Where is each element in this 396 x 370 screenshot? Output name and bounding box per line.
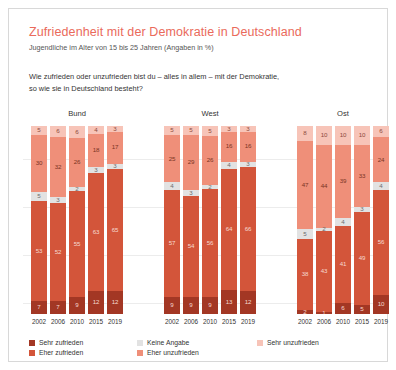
- bar-segment-value: 1: [322, 310, 325, 314]
- bar-segment-sehr-zufrieden[interactable]: 5: [354, 305, 370, 314]
- legend-item-keine-angabe[interactable]: Keine Angabe: [137, 339, 257, 346]
- bar-segment-sehr-zufrieden[interactable]: 7: [50, 301, 66, 314]
- bar-segment-eher-zufrieden[interactable]: 52: [50, 203, 66, 301]
- bar-segment-eher-unzufrieden[interactable]: 24: [373, 137, 389, 182]
- bar-segment-eher-zufrieden[interactable]: 55: [69, 191, 85, 297]
- stacked-bar[interactable]: 5254579: [164, 126, 180, 314]
- stacked-bar[interactable]: 10442431: [316, 126, 332, 314]
- bar-segment-eher-unzufrieden[interactable]: 33: [354, 145, 370, 207]
- legend-item-sehr-unzufrieden[interactable]: Sehr unzufrieden: [257, 339, 367, 346]
- bar-segment-eher-unzufrieden[interactable]: 16: [221, 132, 237, 162]
- stacked-bar[interactable]: 10333495: [354, 126, 370, 314]
- bar-segment-eher-zufrieden[interactable]: 57: [164, 190, 180, 297]
- bar-segment-value: 5: [360, 306, 363, 312]
- stacked-bar[interactable]: 31646413: [221, 126, 237, 314]
- bar-segment-sehr-zufrieden[interactable]: 12: [88, 291, 104, 314]
- bar-segment-eher-unzufrieden[interactable]: 30: [31, 135, 47, 191]
- bar-segment-sehr-unzufrieden[interactable]: 5: [31, 126, 47, 135]
- bar-segment-value: 9: [75, 302, 78, 308]
- bar-segment-sehr-unzufrieden[interactable]: 6: [373, 126, 389, 137]
- bar-segment-sehr-unzufrieden[interactable]: 10: [316, 126, 332, 145]
- stacked-bar[interactable]: 8475382: [297, 126, 313, 314]
- stacked-bar[interactable]: 31636612: [240, 126, 256, 314]
- bar-segment-eher-unzufrieden[interactable]: 16: [240, 132, 256, 162]
- legend-item-eher-zufrieden[interactable]: Eher zufrieden: [29, 349, 137, 356]
- bar-segment-sehr-zufrieden[interactable]: 2: [297, 310, 313, 314]
- bar-segment-sehr-unzufrieden[interactable]: 8: [297, 126, 313, 141]
- bar-segment-value: 9: [208, 302, 211, 308]
- bar-segment-sehr-unzufrieden[interactable]: 6: [69, 126, 85, 138]
- bar-segment-eher-zufrieden[interactable]: 56: [202, 189, 218, 296]
- bar-segment-eher-zufrieden[interactable]: 53: [31, 201, 47, 301]
- bar-segment-sehr-zufrieden[interactable]: 1: [316, 312, 332, 314]
- stacked-bar[interactable]: 31736512: [107, 126, 123, 314]
- bar-segment-sehr-zufrieden[interactable]: 13: [221, 290, 237, 314]
- stacked-bar[interactable]: 41836312: [88, 126, 104, 314]
- bar-segment-sehr-unzufrieden[interactable]: 5: [183, 126, 199, 135]
- bar-segment-sehr-zufrieden[interactable]: 9: [69, 297, 85, 314]
- bar-segment-eher-unzufrieden[interactable]: 26: [69, 138, 85, 188]
- stacked-bar[interactable]: 5293549: [183, 126, 199, 314]
- bar-segment-eher-zufrieden[interactable]: 64: [221, 169, 237, 289]
- bar-segment-eher-unzufrieden[interactable]: 18: [88, 134, 104, 168]
- bar-segment-eher-zufrieden[interactable]: 66: [240, 167, 256, 291]
- bar-segment-value: 29: [188, 159, 195, 165]
- stacked-bar[interactable]: 6262559: [69, 126, 85, 314]
- bar-segment-sehr-zufrieden[interactable]: 12: [240, 291, 256, 314]
- bar-segment-eher-unzufrieden[interactable]: 29: [183, 135, 199, 190]
- bar-group-bars: 5254579529354952625693164641331636612: [164, 126, 256, 314]
- bar-segment-eher-unzufrieden[interactable]: 26: [202, 136, 218, 186]
- legend-row: Eher zufriedenEher unzufrieden: [29, 349, 369, 356]
- bar-segment-eher-zufrieden[interactable]: 38: [297, 239, 313, 310]
- bar-segment-eher-unzufrieden[interactable]: 32: [50, 137, 66, 197]
- bar-segment-keine-angabe[interactable]: 4: [335, 218, 351, 226]
- bar-segment-eher-zufrieden[interactable]: 43: [316, 231, 332, 312]
- bar-segment-value: 39: [340, 178, 347, 184]
- bar-segment-sehr-zufrieden[interactable]: 10: [373, 295, 389, 314]
- bar-segment-sehr-zufrieden[interactable]: 9: [164, 297, 180, 314]
- stacked-bar[interactable]: 5305537: [31, 126, 47, 314]
- bar-segment-eher-zufrieden[interactable]: 49: [354, 212, 370, 304]
- bar-segment-eher-zufrieden[interactable]: 63: [88, 173, 104, 291]
- bar-segment-sehr-zufrieden[interactable]: 9: [202, 297, 218, 314]
- stacked-bar[interactable]: 5262569: [202, 126, 218, 314]
- stacked-bar[interactable]: 6323527: [50, 126, 66, 314]
- bar-segment-eher-zufrieden[interactable]: 41: [335, 226, 351, 303]
- bar-segment-value: 63: [93, 229, 100, 235]
- bar-segment-eher-unzufrieden[interactable]: 25: [164, 135, 180, 182]
- bar-segment-eher-zufrieden[interactable]: 65: [107, 169, 123, 291]
- stacked-bar[interactable]: 10394416: [335, 126, 351, 314]
- bar-segment-eher-unzufrieden[interactable]: 39: [335, 145, 351, 218]
- bar-segment-eher-unzufrieden[interactable]: 17: [107, 132, 123, 164]
- bar-segment-keine-angabe[interactable]: 4: [221, 162, 237, 170]
- bar-segment-sehr-unzufrieden[interactable]: 5: [164, 126, 180, 135]
- bar-segment-value: 26: [207, 157, 214, 163]
- bar-segment-sehr-unzufrieden[interactable]: 4: [88, 126, 104, 134]
- bar-segment-sehr-zufrieden[interactable]: 6: [335, 303, 351, 314]
- bar-segment-eher-unzufrieden[interactable]: 47: [297, 141, 313, 229]
- bar-segment-keine-angabe[interactable]: 4: [164, 182, 180, 190]
- bar-segment-keine-angabe[interactable]: 4: [373, 182, 389, 190]
- bar-segment-sehr-zufrieden[interactable]: 12: [107, 291, 123, 314]
- bar-segment-value: 2: [303, 309, 306, 314]
- bar-segment-eher-unzufrieden[interactable]: 44: [316, 145, 332, 228]
- bar-segment-value: 53: [36, 248, 43, 254]
- stacked-bar[interactable]: 62445610: [373, 126, 389, 314]
- bar-segment-value: 4: [94, 127, 97, 133]
- bar-segment-sehr-zufrieden[interactable]: 7: [31, 301, 47, 314]
- legend-item-eher-unzufrieden[interactable]: Eher unzufrieden: [137, 349, 257, 356]
- x-axis-tick-label: 2010: [335, 318, 351, 325]
- bar-segment-sehr-unzufrieden[interactable]: 5: [202, 126, 218, 136]
- x-axis-tick-label: 2006: [316, 318, 332, 325]
- bar-segment-sehr-zufrieden[interactable]: 9: [183, 297, 199, 314]
- bar-segment-keine-angabe[interactable]: 5: [297, 229, 313, 238]
- legend-item-sehr-zufrieden[interactable]: Sehr zufrieden: [29, 339, 137, 346]
- bar-segment-eher-zufrieden[interactable]: 56: [373, 190, 389, 295]
- bar-segment-sehr-unzufrieden[interactable]: 10: [335, 126, 351, 145]
- bar-segment-eher-zufrieden[interactable]: 54: [183, 196, 199, 298]
- legend-swatch-icon: [137, 340, 143, 346]
- bar-segment-sehr-unzufrieden[interactable]: 10: [354, 126, 370, 145]
- bar-segment-keine-angabe[interactable]: 5: [31, 192, 47, 201]
- bar-segment-value: 56: [207, 240, 214, 246]
- bar-segment-sehr-unzufrieden[interactable]: 6: [50, 126, 66, 137]
